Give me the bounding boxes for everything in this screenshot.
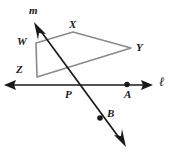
label-y: Y [136, 42, 143, 53]
label-x: X [69, 19, 76, 30]
figure-canvas [0, 0, 173, 155]
label-l: ℓ [159, 75, 164, 88]
label-p: P [65, 89, 72, 100]
label-a: A [124, 89, 131, 100]
label-m: m [29, 5, 38, 16]
label-b: B [107, 108, 114, 119]
point-b-dot [97, 115, 103, 121]
label-w: W [17, 36, 27, 47]
geometry-figure: m X W Y Z P A B ℓ [0, 0, 173, 155]
label-z: Z [16, 64, 23, 75]
line-m-lower-arrowhead [114, 129, 126, 147]
point-a-dot [124, 82, 130, 88]
quadrilateral-wxyz [36, 32, 131, 77]
line-m-upper-arrowhead [34, 22, 46, 40]
